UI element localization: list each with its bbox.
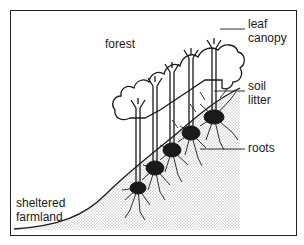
label-leaf: leaf: [248, 18, 267, 31]
label-farmland: farmland: [16, 211, 63, 224]
label-sheltered: sheltered: [16, 197, 65, 210]
label-litter: litter: [248, 94, 271, 107]
label-canopy: canopy: [248, 32, 287, 45]
label-forest: forest: [105, 38, 135, 51]
label-roots: roots: [248, 142, 275, 155]
label-soil: soil: [248, 80, 266, 93]
